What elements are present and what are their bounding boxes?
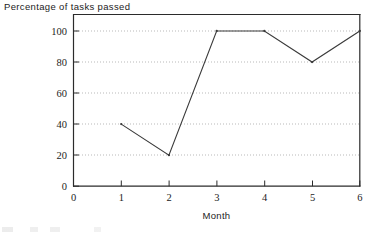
x-tick-label-1: 1 xyxy=(119,192,124,203)
x-tick-label-2: 2 xyxy=(166,192,171,203)
plot-frame xyxy=(73,14,361,187)
page-edge-artifact xyxy=(2,227,112,232)
x-tick-marks xyxy=(74,181,360,187)
line-chart-plot: 0 20 40 60 80 100 0 1 2 3 4 5 6 Month xyxy=(0,0,384,234)
x-tick-label-0: 0 xyxy=(71,192,76,203)
x-tick-label-6: 6 xyxy=(357,192,362,203)
data-point-2 xyxy=(168,154,170,156)
y-tick-label-100: 100 xyxy=(51,26,67,37)
data-point-1 xyxy=(120,123,122,125)
x-tick-label-4: 4 xyxy=(262,192,268,203)
data-point-3 xyxy=(216,30,218,32)
y-tick-label-20: 20 xyxy=(57,150,68,161)
y-tick-label-0: 0 xyxy=(62,181,67,192)
y-tick-label-40: 40 xyxy=(57,119,68,130)
y-axis-tick-labels: 0 20 40 60 80 100 xyxy=(51,26,67,192)
x-axis-title: Month xyxy=(203,210,231,221)
data-point-6 xyxy=(359,30,361,32)
x-tick-label-3: 3 xyxy=(214,192,219,203)
chart-figure: Percentage of tasks passed xyxy=(0,0,384,234)
y-tick-label-80: 80 xyxy=(57,57,68,68)
x-tick-label-5: 5 xyxy=(310,192,315,203)
data-point-4 xyxy=(263,30,265,32)
x-axis-tick-labels: 0 1 2 3 4 5 6 xyxy=(71,192,363,203)
gridlines xyxy=(73,31,360,155)
data-point-markers xyxy=(120,30,361,156)
data-point-5 xyxy=(311,61,313,63)
y-tick-label-60: 60 xyxy=(57,88,68,99)
